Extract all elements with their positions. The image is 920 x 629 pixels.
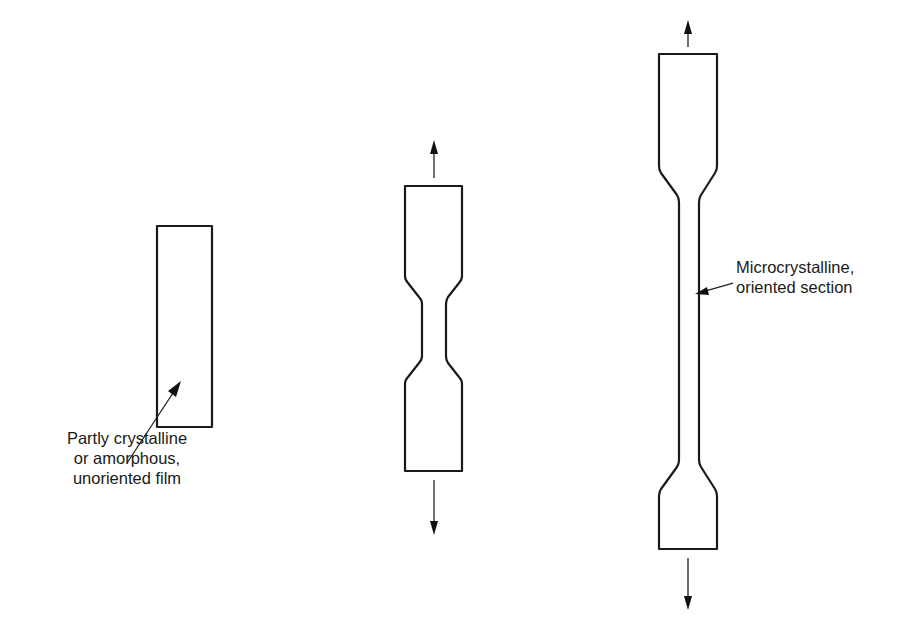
drawn-specimen-outline [659, 54, 717, 549]
specimen-figure [0, 0, 920, 629]
leader-arrowhead-icon [695, 287, 709, 295]
oriented-label-line-1: Microcrystalline, [736, 257, 854, 277]
leader-arrowhead-icon [168, 381, 181, 397]
film-label: Partly crystalline or amorphous, unorien… [42, 428, 212, 488]
arrow-up-icon [684, 20, 692, 34]
specimen-necking [405, 186, 462, 471]
oriented-section-label: Microcrystalline, oriented section [736, 257, 854, 297]
film-label-line-1: Partly crystalline [42, 428, 212, 448]
arrow-down-icon [684, 596, 692, 610]
specimen-unoriented-film [157, 226, 212, 427]
oriented-label-line-2: oriented section [736, 277, 854, 297]
film-label-line-3: unoriented film [42, 468, 212, 488]
arrow-down-icon [430, 521, 438, 535]
arrow-up-icon [430, 140, 438, 154]
film-label-line-2: or amorphous, [42, 448, 212, 468]
necked-specimen-outline [405, 186, 462, 471]
stage2-tension-arrow-down [430, 480, 438, 535]
stage3-tension-arrow-up [684, 20, 692, 47]
film-strip-outline [157, 226, 212, 427]
oriented-label-leader-arrow [695, 283, 733, 295]
specimen-drawn [659, 54, 717, 549]
stage2-tension-arrow-up [430, 140, 438, 178]
stage3-tension-arrow-down [684, 558, 692, 610]
diagram-canvas: Partly crystalline or amorphous, unorien… [0, 0, 920, 629]
